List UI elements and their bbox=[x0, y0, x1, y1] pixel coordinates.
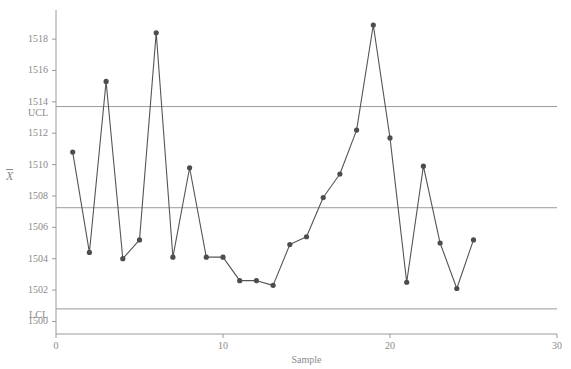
control-limit-label-lcl: LCL bbox=[8, 310, 48, 320]
y-axis-title: X bbox=[6, 170, 13, 182]
data-point-marker bbox=[404, 280, 409, 285]
data-point-marker bbox=[220, 255, 225, 260]
data-point-marker bbox=[421, 164, 426, 169]
y-axis-title-text: X bbox=[6, 170, 13, 182]
data-point-marker bbox=[87, 250, 92, 255]
data-point-marker bbox=[70, 149, 75, 154]
data-point-marker bbox=[204, 255, 209, 260]
data-point-marker bbox=[354, 127, 359, 132]
y-axis-title-glyph: X bbox=[6, 169, 13, 183]
data-point-marker bbox=[304, 234, 309, 239]
series-polyline bbox=[73, 25, 474, 289]
data-point-marker bbox=[438, 240, 443, 245]
axes bbox=[52, 10, 557, 338]
control-chart: 1500150215041506150815101512151415161518… bbox=[0, 0, 571, 369]
y-tick-label: 1510 bbox=[8, 160, 48, 170]
x-tick-label: 10 bbox=[208, 341, 238, 351]
x-tick-label: 30 bbox=[542, 341, 571, 351]
data-point-marker bbox=[387, 135, 392, 140]
data-point-marker bbox=[187, 165, 192, 170]
data-series-line bbox=[73, 25, 474, 289]
data-point-marker bbox=[271, 283, 276, 288]
data-point-markers bbox=[70, 22, 476, 291]
x-tick-label: 20 bbox=[375, 341, 405, 351]
chart-canvas bbox=[0, 0, 571, 369]
data-point-marker bbox=[154, 30, 159, 35]
data-point-marker bbox=[104, 79, 109, 84]
y-tick-label: 1514 bbox=[8, 97, 48, 107]
data-point-marker bbox=[471, 237, 476, 242]
overbar bbox=[6, 169, 13, 170]
control-limit-lines bbox=[56, 107, 557, 309]
y-tick-label: 1506 bbox=[8, 222, 48, 232]
x-tick-label: 0 bbox=[41, 341, 71, 351]
data-point-marker bbox=[337, 171, 342, 176]
y-tick-label: 1518 bbox=[8, 34, 48, 44]
data-point-marker bbox=[454, 286, 459, 291]
data-point-marker bbox=[321, 195, 326, 200]
data-point-marker bbox=[137, 237, 142, 242]
data-point-marker bbox=[254, 278, 259, 283]
data-point-marker bbox=[237, 278, 242, 283]
x-axis-title: Sample bbox=[267, 355, 347, 365]
data-point-marker bbox=[371, 22, 376, 27]
data-point-marker bbox=[287, 242, 292, 247]
data-point-marker bbox=[120, 256, 125, 261]
control-limit-label-ucl: UCL bbox=[8, 108, 48, 118]
data-point-marker bbox=[170, 255, 175, 260]
y-tick-label: 1516 bbox=[8, 65, 48, 75]
y-tick-label: 1508 bbox=[8, 191, 48, 201]
y-tick-label: 1502 bbox=[8, 285, 48, 295]
y-tick-label: 1504 bbox=[8, 254, 48, 264]
y-tick-label: 1512 bbox=[8, 128, 48, 138]
